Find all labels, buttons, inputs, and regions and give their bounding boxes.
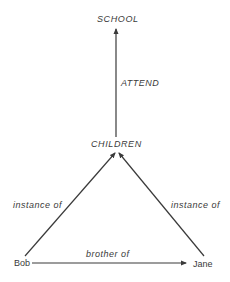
edge-label-brother-of: brother of — [86, 249, 130, 259]
edge-label-instance-of-right: instance of — [171, 200, 220, 210]
edge-label-attend: ATTEND — [121, 78, 159, 88]
node-children: CHILDREN — [91, 139, 142, 149]
edge-label-instance-of-left: instance of — [13, 200, 62, 210]
node-school: SCHOOL — [97, 14, 139, 24]
node-jane: Jane — [193, 259, 213, 269]
node-bob: Bob — [14, 258, 30, 268]
